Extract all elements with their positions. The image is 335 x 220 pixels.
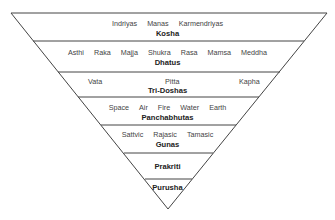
kosha-items: Indriyas Manas Karmendriyas xyxy=(0,19,335,28)
item-mamsa: Mamsa xyxy=(207,48,231,57)
gunas-items: Sattvic Rajasic Tamasic xyxy=(0,130,335,139)
item-shukra: Shukra xyxy=(148,48,171,57)
item-space: Space xyxy=(109,103,129,112)
layer-title-panchabhutas: Panchabhutas xyxy=(0,113,335,122)
item-vata: Vata xyxy=(88,77,102,86)
layer-title-kosha: Kosha xyxy=(0,29,335,38)
item-manas: Manas xyxy=(147,19,169,28)
item-earth: Earth xyxy=(209,103,226,112)
item-asthi: Asthi xyxy=(68,48,84,57)
item-meddha: Meddha xyxy=(241,48,267,57)
dhatus-items: Asthi Raka Majja Shukra Rasa Mamsa Meddh… xyxy=(0,48,335,57)
item-indriyas: Indriyas xyxy=(112,19,137,28)
item-pitta: Pitta xyxy=(165,77,179,86)
item-air: Air xyxy=(139,103,148,112)
panchabhutas-items: Space Air Fire Water Earth xyxy=(0,103,335,112)
layer-title-purusha: Purusha xyxy=(0,183,335,192)
layer-title-dhatus: Dhatus xyxy=(0,58,335,67)
item-water: Water xyxy=(180,103,199,112)
item-kapha: Kapha xyxy=(239,77,260,86)
item-rasa: Rasa xyxy=(181,48,198,57)
item-majja: Majja xyxy=(121,48,138,57)
layer-title-gunas: Gunas xyxy=(0,140,335,149)
item-raka: Raka xyxy=(94,48,111,57)
item-fire: Fire xyxy=(158,103,170,112)
item-tamasic: Tamasic xyxy=(187,130,213,139)
layer-title-prakriti: Prakriti xyxy=(0,162,335,171)
layer-title-tridoshas: Tri-Doshas xyxy=(0,86,335,95)
item-rajasic: Rajasic xyxy=(153,130,177,139)
item-sattvic: Sattvic xyxy=(122,130,144,139)
item-karmendriyas: Karmendriyas xyxy=(179,19,223,28)
